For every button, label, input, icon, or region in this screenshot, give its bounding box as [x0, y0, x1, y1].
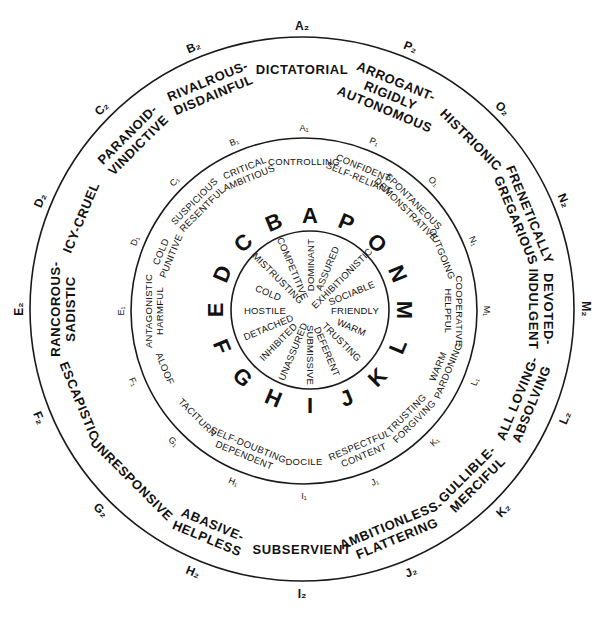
- inner-trait-m: FRIENDLY: [331, 305, 379, 316]
- middle-marker-c1-line: C₁: [168, 175, 182, 189]
- middle-marker-d1: D₁: [128, 235, 141, 248]
- middle-trait-f1: ALOOF: [154, 351, 177, 386]
- middle-trait-e1-line: HARMFUL: [154, 287, 165, 335]
- outer-marker-o2-line: O₂: [492, 98, 512, 118]
- outer-trait-e2-line: SADISTIC: [63, 276, 78, 341]
- middle-marker-b1: B₁: [228, 135, 240, 148]
- inner-letter-g: G: [228, 362, 258, 392]
- inner-letter-j-line: J: [336, 384, 357, 412]
- inner-letter-j: J: [336, 384, 357, 412]
- outer-marker-l2-line: L₂: [556, 409, 574, 426]
- middle-marker-d1-line: D₁: [128, 235, 141, 248]
- inner-letter-c-line: C: [228, 228, 257, 257]
- middle-marker-g1-line: G₁: [166, 435, 180, 449]
- middle-trait-i1: DOCILE: [285, 456, 322, 467]
- outer-marker-c2-line: C₂: [92, 99, 112, 119]
- inner-letter-e-line: E: [203, 303, 228, 318]
- outer-marker-c2: C₂: [92, 99, 112, 119]
- inner-letter-n-line: N: [383, 262, 412, 286]
- middle-marker-l1-line: L₁: [469, 376, 481, 387]
- inner-trait-a-line: DOMINANT: [305, 239, 316, 291]
- middle-marker-p1-line: P₁: [368, 135, 380, 148]
- circumplex-diagram: A₂B₂C₂D₂E₂F₂G₂H₂I₂J₂K₂L₂M₂N₂O₂P₂DICTATOR…: [0, 0, 602, 623]
- outer-marker-b2-line: B₂: [184, 38, 202, 56]
- outer-trait-o2-line: HISTRIONIC: [437, 106, 505, 174]
- middle-marker-e1-line: E₁: [116, 306, 126, 315]
- outer-marker-l2: L₂: [556, 409, 574, 426]
- outer-marker-k2-line: K₂: [493, 500, 513, 520]
- inner-letter-f-line: F: [208, 335, 236, 357]
- inner-letter-i: I: [307, 393, 313, 418]
- inner-letter-p-line: P: [335, 208, 358, 237]
- outer-marker-n2-line: N₂: [555, 191, 573, 209]
- middle-marker-i1-line: I₁: [301, 491, 307, 501]
- inner-letter-e: E: [203, 303, 228, 318]
- outer-marker-m2-line: M₂: [579, 301, 593, 316]
- middle-marker-f1-line: F₁: [127, 376, 140, 388]
- outer-trait-m2-line: DEVOTED-: [541, 273, 556, 345]
- inner-letter-k-line: K: [363, 363, 392, 392]
- inner-letter-a: A: [302, 203, 318, 228]
- outer-trait-a2: DICTATORIAL: [256, 62, 349, 77]
- inner-letter-i-line: I: [307, 393, 313, 418]
- outer-trait-e2: RANCOROUS-SADISTIC: [48, 261, 78, 357]
- inner-letter-c: C: [228, 228, 257, 257]
- outer-trait-h2: ABASIVE-HELPLESS: [170, 503, 249, 559]
- middle-marker-m1: M₁: [482, 306, 492, 317]
- outer-marker-h2-line: H₂: [184, 563, 202, 581]
- outer-trait-f2: ESCAPISTIC: [57, 359, 103, 442]
- middle-marker-p1: P₁: [368, 135, 380, 148]
- middle-trait-m1: COOPERATIVEHELPFUL: [443, 275, 465, 346]
- outer-trait-d2: ICY-CRUEL: [60, 180, 103, 255]
- middle-ring: [131, 138, 477, 484]
- inner-letter-l: L: [384, 335, 412, 357]
- middle-marker-f1: F₁: [127, 376, 140, 388]
- outer-marker-a2: A₂: [295, 19, 309, 33]
- inner-letter-d-line: D: [208, 262, 237, 286]
- middle-trait-e1-line: ANTAGONISTIC: [143, 274, 154, 348]
- middle-marker-m1-line: M₁: [482, 306, 492, 317]
- inner-trait-e: HOSTILE: [244, 305, 286, 316]
- outer-trait-n2: FRENETICALLYGREGARIOUS: [489, 163, 557, 271]
- middle-marker-a1: A₁: [299, 123, 308, 133]
- outer-trait-i2-line: SUBSERVIENT: [253, 542, 352, 557]
- outer-marker-j2-line: J₂: [403, 563, 419, 581]
- outer-marker-f2-line: F₂: [30, 409, 48, 426]
- inner-letter-a-line: A: [302, 203, 318, 228]
- outer-trait-e2-line: RANCOROUS-: [48, 261, 63, 357]
- outer-marker-k2: K₂: [493, 500, 513, 520]
- middle-trait-j1: RESPECTFULCONTENT: [327, 427, 396, 473]
- middle-marker-b1-line: B₁: [228, 135, 240, 148]
- outer-marker-d2-line: D₂: [31, 191, 49, 209]
- outer-trait-d2-line: ICY-CRUEL: [60, 180, 103, 255]
- inner-letter-l-line: L: [384, 335, 412, 357]
- middle-trait-f1-line: ALOOF: [154, 351, 177, 386]
- inner-letter-b: B: [262, 208, 286, 237]
- middle-marker-l1: L₁: [469, 376, 481, 387]
- middle-trait-e1: ANTAGONISTICHARMFUL: [143, 274, 165, 348]
- middle-trait-m1-line: COOPERATIVE: [454, 275, 465, 346]
- middle-trait-k1: TRUSTINGFORGIVING: [383, 390, 438, 445]
- outer-marker-e2: E₂: [12, 302, 26, 315]
- inner-letter-p: P: [335, 208, 358, 237]
- outer-marker-b2: B₂: [184, 38, 202, 56]
- middle-marker-n1: N₁: [467, 235, 480, 248]
- inner-trait-a: DOMINANT: [305, 239, 316, 291]
- inner-letter-m-line: M: [392, 301, 417, 319]
- inner-letter-n: N: [383, 262, 412, 286]
- outer-marker-m2: M₂: [579, 301, 593, 316]
- diagram-labels: A₂B₂C₂D₂E₂F₂G₂H₂I₂J₂K₂L₂M₂N₂O₂P₂DICTATOR…: [12, 19, 593, 601]
- middle-trait-h1: SELF-DOUBTINGDEPENDENT: [205, 424, 288, 475]
- outer-marker-h2: H₂: [184, 563, 202, 581]
- outer-trait-o2: HISTRIONIC: [437, 106, 505, 174]
- middle-marker-h1: H₁: [227, 475, 240, 488]
- inner-letter-m: M: [392, 301, 417, 319]
- middle-marker-j1: J₁: [369, 476, 380, 488]
- outer-trait-m2: DEVOTED-INDULGENT: [526, 268, 556, 349]
- outer-marker-n2: N₂: [555, 191, 573, 209]
- middle-marker-a1-line: A₁: [299, 123, 308, 133]
- outer-trait-i2: SUBSERVIENT: [253, 542, 352, 557]
- outer-trait-f2-line: ESCAPISTIC: [57, 359, 103, 442]
- outer-trait-a2-line: DICTATORIAL: [256, 62, 349, 77]
- outer-trait-m2-line: INDULGENT: [526, 268, 541, 349]
